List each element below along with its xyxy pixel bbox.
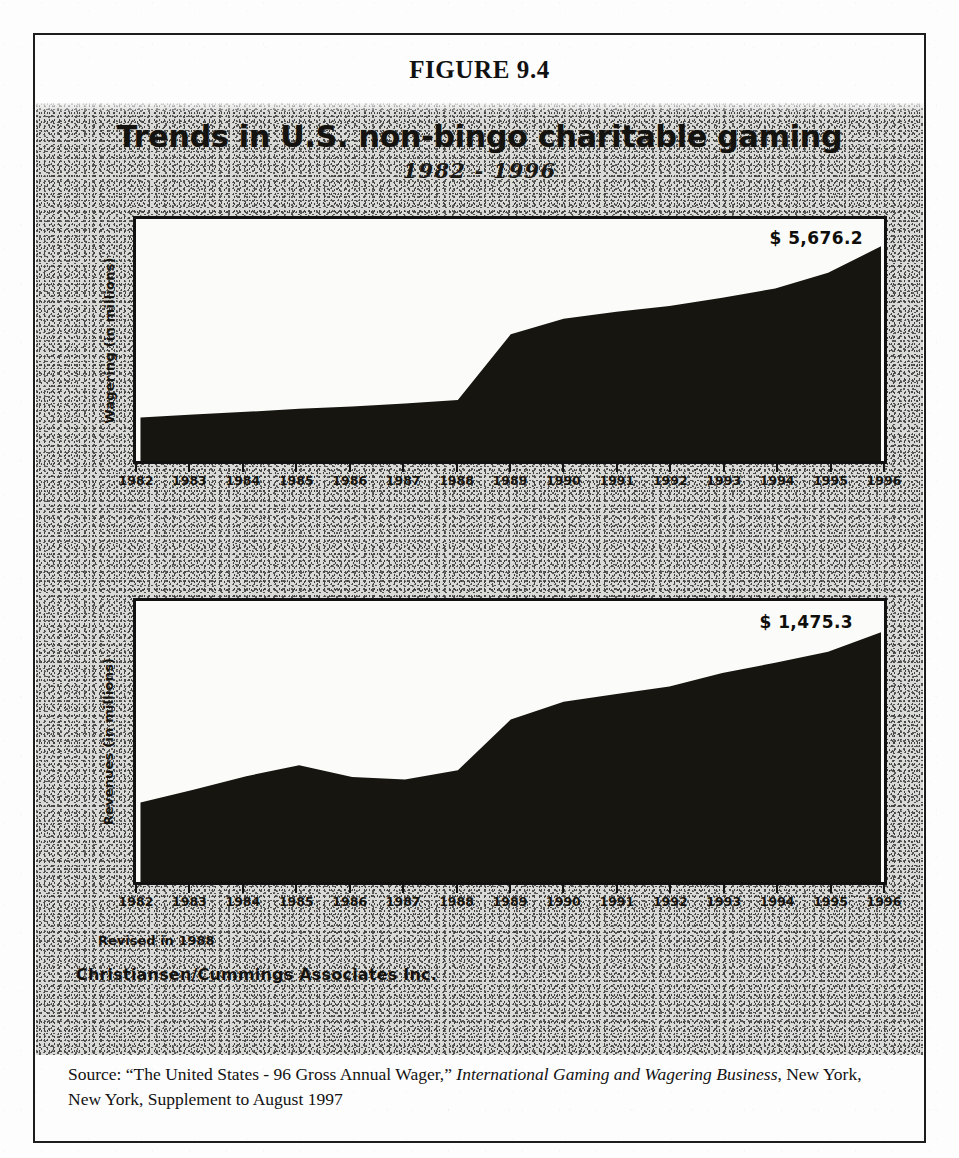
chart-panel-revenues: Revenues (in millions) $ 1,475.3 1982198… (97, 598, 887, 885)
chart-panel-wagering: Wagering (in millions) $ 5,676.2 1982198… (97, 216, 887, 464)
area-series-wagering (136, 219, 884, 461)
plot-area-revenues (133, 598, 887, 885)
plot-area-wagering (133, 216, 887, 464)
value-callout-revenues: $ 1,475.3 (760, 612, 853, 632)
x-axis-tick (188, 885, 190, 893)
area-path-revenues (140, 632, 881, 882)
y-axis-label-wagering-text: Wagering (in millions) (102, 257, 117, 424)
x-axis-tick (509, 885, 511, 893)
x-axis-tick (242, 464, 244, 472)
x-axis-tick-label: 1982 (119, 894, 154, 909)
x-axis-tick-label: 1986 (332, 894, 367, 909)
x-axis-tick (295, 885, 297, 893)
x-axis-tick-label: 1995 (813, 894, 848, 909)
x-axis-tick (402, 464, 404, 472)
x-axis-tick-label: 1994 (760, 894, 795, 909)
x-axis-tick-label: 1985 (279, 473, 314, 488)
x-axis-tick (349, 464, 351, 472)
x-axis-tick (830, 464, 832, 472)
figure-caption: FIGURE 9.4 (36, 38, 923, 102)
x-axis-tick-label: 1990 (546, 894, 581, 909)
x-axis-tick (242, 885, 244, 893)
source-citation: Source: “The United States - 96 Gross An… (68, 1062, 868, 1113)
x-axis-tick (830, 885, 832, 893)
scanned-page: FIGURE 9.4 Trends in U.S. non-bingo char… (0, 0, 959, 1158)
x-axis-tick (295, 464, 297, 472)
x-axis-tick-label: 1988 (439, 894, 474, 909)
x-axis-ticks-revenues (136, 885, 884, 893)
x-axis-tick (616, 464, 618, 472)
x-axis-tick-label: 1984 (225, 894, 260, 909)
x-axis-tick (723, 464, 725, 472)
x-axis-tick-label: 1991 (599, 473, 634, 488)
x-axis-tick (188, 464, 190, 472)
x-axis-wagering: 1982198319841985198619871988198919901991… (133, 464, 887, 494)
x-axis-tick (616, 885, 618, 893)
x-axis-tick (456, 464, 458, 472)
x-axis-tick (776, 885, 778, 893)
note-revised: Revised in 1988 (98, 933, 215, 948)
x-axis-tick (562, 885, 564, 893)
x-axis-tick-label: 1995 (813, 473, 848, 488)
figure-body-panel: Trends in U.S. non-bingo charitable gami… (36, 103, 923, 1055)
x-axis-tick-label: 1983 (172, 473, 207, 488)
x-axis-tick (135, 885, 137, 893)
x-axis-revenues: 1982198319841985198619871988198919901991… (133, 885, 887, 915)
x-axis-tick-label: 1982 (119, 473, 154, 488)
x-axis-tick-label: 1988 (439, 473, 474, 488)
x-axis-tick-label: 1991 (599, 894, 634, 909)
note-attribution: Christiansen/Cummings Associates Inc. (76, 965, 437, 984)
page-subtitle: 1982 - 1996 (36, 158, 923, 183)
x-axis-tick-labels-revenues: 1982198319841985198619871988198919901991… (136, 894, 884, 914)
x-axis-tick-label: 1992 (653, 894, 688, 909)
area-series-revenues (136, 601, 884, 882)
x-axis-tick-label: 1984 (225, 473, 260, 488)
x-axis-tick (776, 464, 778, 472)
y-axis-label-revenues-text: Revenues (in millions) (102, 658, 117, 826)
x-axis-tick (883, 464, 885, 472)
x-axis-tick-label: 1989 (493, 894, 528, 909)
x-axis-tick-label: 1985 (279, 894, 314, 909)
x-axis-tick-label: 1986 (332, 473, 367, 488)
x-axis-tick-label: 1983 (172, 894, 207, 909)
x-axis-tick (669, 464, 671, 472)
x-axis-tick-label: 1990 (546, 473, 581, 488)
x-axis-tick (456, 885, 458, 893)
x-axis-tick (509, 464, 511, 472)
x-axis-tick (669, 885, 671, 893)
value-callout-wagering: $ 5,676.2 (770, 228, 863, 248)
page-title: Trends in U.S. non-bingo charitable gami… (36, 119, 923, 154)
x-axis-tick (135, 464, 137, 472)
x-axis-tick (883, 885, 885, 893)
x-axis-tick (349, 885, 351, 893)
x-axis-tick-label: 1996 (867, 473, 902, 488)
x-axis-tick (402, 885, 404, 893)
x-axis-tick-label: 1987 (386, 894, 421, 909)
x-axis-tick-label: 1993 (706, 473, 741, 488)
x-axis-tick-label: 1989 (493, 473, 528, 488)
x-axis-tick-label: 1987 (386, 473, 421, 488)
y-axis-label-wagering: Wagering (in millions) (96, 216, 122, 464)
x-axis-tick-label: 1994 (760, 473, 795, 488)
source-publication: International Gaming and Wagering Busine… (456, 1064, 777, 1084)
area-path-wagering (140, 246, 881, 461)
x-axis-tick-label: 1993 (706, 894, 741, 909)
source-prefix: Source: “The United States - 96 Gross An… (68, 1064, 456, 1084)
x-axis-tick (723, 885, 725, 893)
x-axis-tick-label: 1996 (867, 894, 902, 909)
x-axis-tick (562, 464, 564, 472)
x-axis-ticks-wagering (136, 464, 884, 472)
y-axis-label-revenues: Revenues (in millions) (96, 598, 122, 885)
figure-caption-text: FIGURE 9.4 (409, 56, 550, 84)
x-axis-tick-labels-wagering: 1982198319841985198619871988198919901991… (136, 473, 884, 493)
x-axis-tick-label: 1992 (653, 473, 688, 488)
